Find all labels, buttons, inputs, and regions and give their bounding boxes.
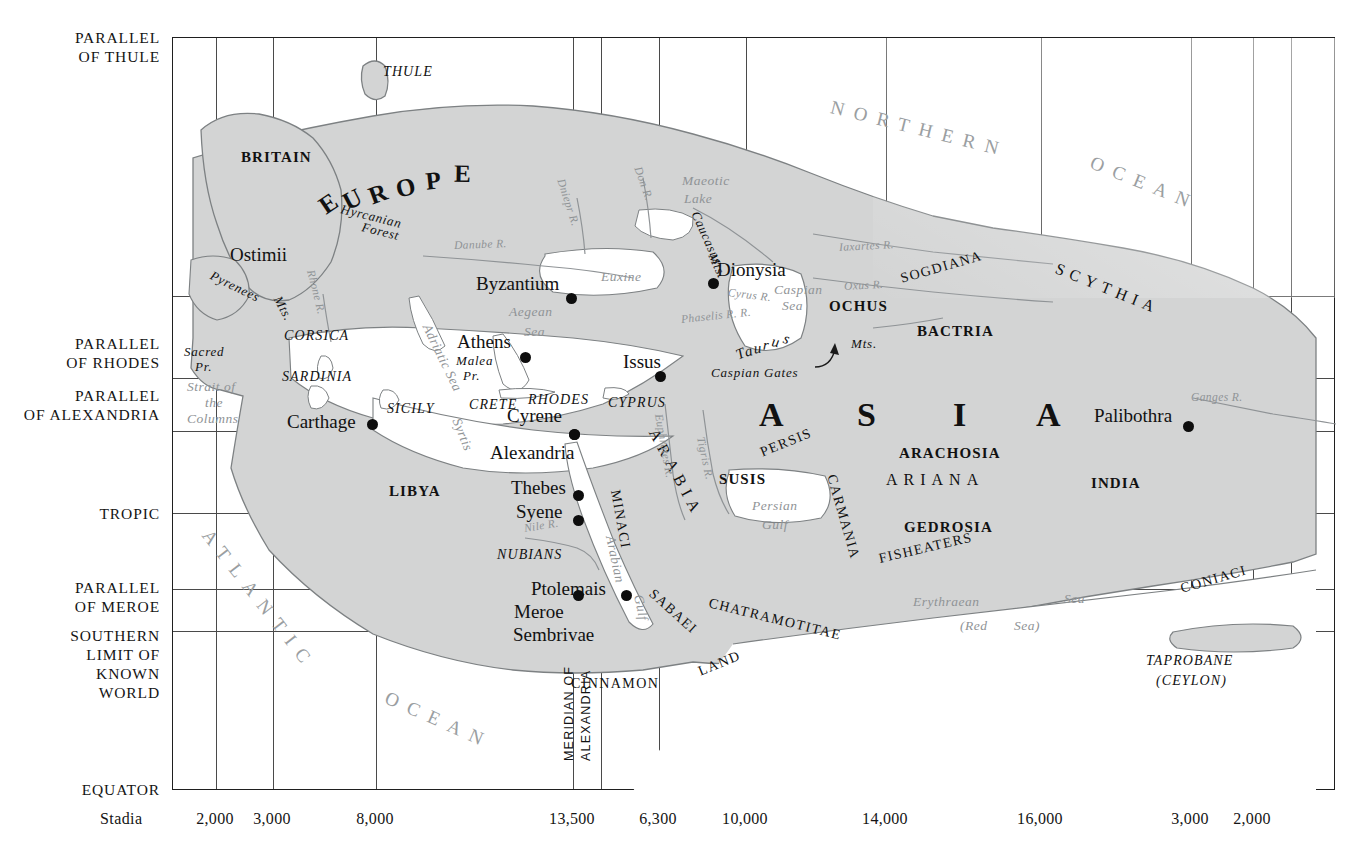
river-label-danube-r: Danube R.	[454, 237, 507, 251]
city-label-issus: Issus	[623, 351, 661, 373]
continent-letter: P	[424, 166, 444, 196]
city-dot-issus	[655, 371, 666, 382]
continent-europe: EUROPE	[301, 161, 483, 189]
region-cyprus: CYPRUS	[608, 395, 666, 411]
continent-asia-letter-0: A	[759, 396, 784, 434]
scale-value-0: 2,000	[196, 810, 234, 828]
scale-unit-label: Stadia	[100, 810, 142, 828]
city-dot-palibothra	[1183, 421, 1194, 432]
parallel-of-alexandria: PARALLEL OF ALEXANDRIA	[0, 386, 160, 424]
water-label-maeotic: Maeotic	[682, 173, 730, 189]
city-dot-meroe	[573, 590, 584, 601]
continent-asia-letter-3: A	[1036, 396, 1061, 434]
equator: EQUATOR	[0, 780, 160, 799]
scale-bar: Stadia2,0003,0008,00013,5006,30010,00014…	[0, 806, 1362, 838]
scale-value-5: 10,000	[722, 810, 768, 828]
region-crete: CRETE	[469, 397, 517, 413]
city-dot-athens	[520, 352, 531, 363]
city-label-athens: Athens	[457, 331, 511, 353]
tropic: TROPIC	[0, 504, 160, 523]
region-sardinia: SARDINIA	[282, 369, 352, 385]
southern-limit: SOUTHERN LIMIT OF KNOWN WORLD	[0, 626, 160, 702]
continent-letter: E	[453, 160, 472, 188]
water-label-sea: Sea	[782, 298, 803, 314]
mountain-malea: Malea	[456, 353, 493, 369]
city-label-alexandria: Alexandria	[490, 442, 574, 464]
mountain-pr: Pr.	[463, 368, 480, 384]
region-libya: LIBYA	[389, 483, 441, 500]
scale-value-8: 3,000	[1171, 810, 1209, 828]
parallel-of-thule: PARALLEL OF THULE	[0, 28, 160, 66]
scale-value-1: 3,000	[253, 810, 291, 828]
region-nubians: NUBIANS	[497, 547, 562, 563]
water-label-sea: Sea	[1064, 591, 1085, 607]
water-label-red: (Red	[960, 618, 987, 634]
map-frame: ByzantiumDionysiaAthensIssusCarthageCyre…	[172, 37, 1335, 790]
region-susis: SUSIS	[719, 471, 766, 488]
river-label-ganges-r: Ganges R.	[1191, 391, 1243, 403]
city-dot-alexandria	[569, 429, 580, 440]
city-label-carthage: Carthage	[287, 411, 356, 433]
water-label-columns: Columns	[187, 411, 239, 427]
water-label-erythraean: Erythraean	[913, 594, 980, 610]
scale-value-3: 13,500	[549, 810, 595, 828]
region-corsica: CORSICA	[284, 328, 349, 344]
mountain-caspian-gates: Caspian Gates	[711, 365, 798, 381]
parallel-of-meroe: PARALLEL OF MEROE	[0, 578, 160, 616]
water-label-persian: Persian	[752, 498, 798, 514]
city-dot-syene	[573, 515, 584, 526]
city-dot-carthage	[367, 419, 378, 430]
continent-asia-letter-2: I	[953, 396, 966, 434]
mountain-sacred: Sacred	[184, 344, 224, 360]
river-label-oxus-r: Oxus R.	[844, 278, 884, 292]
parallel-of-rhodes: PARALLEL OF RHODES	[0, 334, 160, 372]
water-label-gulf: Gulf	[762, 517, 788, 533]
city-dot-byzantium	[566, 293, 577, 304]
city-label-thebes: Thebes	[511, 477, 566, 499]
mountain-taurus: Taurus	[731, 331, 792, 349]
water-label-euxine: Euxine	[601, 269, 641, 285]
mountain-pr: Pr.	[195, 359, 212, 375]
region-sicily: SICILY	[387, 401, 435, 417]
region-arachosia: ARACHOSIA	[899, 445, 1001, 462]
city-label-ptolemais: Ptolemais	[531, 578, 606, 600]
meridian-of-alexandria-line-2: ALEXANDRIA	[579, 670, 593, 761]
mountain-ostimii: Ostimii	[230, 244, 287, 266]
city-label-meroe: Meroe	[514, 601, 564, 623]
city-dot-thebes	[573, 490, 584, 501]
city-label-sembrivae: Sembrivae	[513, 624, 594, 646]
water-label-lake: Lake	[684, 191, 712, 207]
scale-value-6: 14,000	[862, 810, 908, 828]
city-label-byzantium: Byzantium	[476, 273, 559, 295]
water-label-caspian: Caspian	[774, 282, 823, 298]
scale-value-2: 8,000	[356, 810, 394, 828]
map-page: PARALLEL OF THULEPARALLEL OF RHODESPARAL…	[0, 0, 1362, 847]
scale-value-7: 16,000	[1017, 810, 1063, 828]
caspian-gates-arrow	[813, 341, 853, 377]
water-label-sea: Sea	[524, 324, 545, 340]
mountain-mts: Mts.	[851, 336, 877, 352]
region-thule: THULE	[383, 64, 433, 80]
city-label-palibothra: Palibothra	[1094, 405, 1172, 427]
water-label-aegean: Aegean	[509, 304, 552, 320]
scale-value-4: 6,300	[639, 810, 677, 828]
region-ariana: ARIANA	[886, 471, 984, 489]
meridian-of-alexandria-line-1: MERIDIAN OF	[562, 666, 576, 761]
region-gedrosia: GEDROSIA	[904, 519, 993, 536]
region-ochus: OCHUS	[829, 298, 888, 315]
water-label-sea: Sea)	[1014, 618, 1040, 634]
region-taprobane: TAPROBANE	[1146, 653, 1233, 669]
scale-value-9: 2,000	[1233, 810, 1271, 828]
region-india: INDIA	[1091, 475, 1141, 492]
water-label-the: the	[205, 395, 223, 411]
region-bactria: BACTRIA	[917, 323, 994, 340]
water-label-strait-of: Strait of	[187, 379, 235, 395]
region-rhodes: RHODES	[528, 392, 589, 408]
continent-asia-letter-1: S	[857, 396, 876, 434]
region-ceylon: (CEYLON)	[1156, 673, 1227, 689]
